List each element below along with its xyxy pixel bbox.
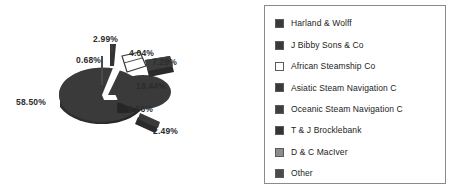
legend-swatch-icon <box>275 19 284 28</box>
legend-swatch-icon <box>275 169 284 178</box>
legend-item-label: African Steamship Co <box>291 62 375 71</box>
pie-label-2-49: 2.49% <box>153 127 178 136</box>
legend-swatch-icon <box>275 83 284 92</box>
pie-label-18-44: 18.44% <box>136 82 166 91</box>
legend-item-label: Other <box>291 169 313 178</box>
legend: Harland & Wolff J Bibby Sons & Co Africa… <box>264 5 446 184</box>
legend-item-label: J Bibby Sons & Co <box>291 41 364 50</box>
legend-item-label: Oceanic Steam Navigation C <box>291 105 403 114</box>
legend-list: Harland & Wolff J Bibby Sons & Co Africa… <box>275 13 441 184</box>
pie-label-4-04: 4.04% <box>129 49 154 58</box>
pie-graphic <box>0 0 255 189</box>
legend-item-label: T & J Brocklebank <box>291 126 362 135</box>
legend-item-label: Asiatic Steam Navigation C <box>291 84 397 93</box>
legend-item-african-steamship[interactable]: African Steamship Co <box>275 56 441 77</box>
legend-item-oceanic-steam-navigation[interactable]: Oceanic Steam Navigation C <box>275 99 441 120</box>
legend-swatch-icon <box>275 148 284 157</box>
pie-label-2-99: 2.99% <box>93 35 118 44</box>
legend-swatch-icon <box>275 126 284 135</box>
legend-item-j-bibby-sons[interactable]: J Bibby Sons & Co <box>275 34 441 55</box>
legend-item-asiatic-steam-navigation[interactable]: Asiatic Steam Navigation C <box>275 77 441 98</box>
legend-swatch-icon <box>275 62 284 71</box>
legend-item-t-j-brocklebank[interactable]: T & J Brocklebank <box>275 120 441 141</box>
pie-label-0-68: 0.68% <box>76 56 101 65</box>
pie-chart-figure: 58.50% 18.44% 7.29% 5.56% 4.04% 2.99% 2.… <box>0 0 451 189</box>
legend-item-d-c-maciver[interactable]: D & C MacIver <box>275 141 441 162</box>
pie-slice-oceanic-steam <box>110 44 116 66</box>
pie-label-58-50: 58.50% <box>16 98 46 107</box>
legend-swatch-icon <box>275 105 284 114</box>
legend-item-other[interactable]: Other <box>275 163 441 184</box>
pie-panel: 58.50% 18.44% 7.29% 5.56% 4.04% 2.99% 2.… <box>0 0 255 189</box>
legend-item-label: D & C MacIver <box>291 148 348 157</box>
legend-swatch-icon <box>275 41 284 50</box>
legend-item-harland-wolff[interactable]: Harland & Wolff <box>275 13 441 34</box>
pie-label-5-56: 5.56% <box>128 105 153 114</box>
legend-item-label: Harland & Wolff <box>291 19 352 28</box>
pie-label-7-29: 7.29% <box>152 58 177 67</box>
